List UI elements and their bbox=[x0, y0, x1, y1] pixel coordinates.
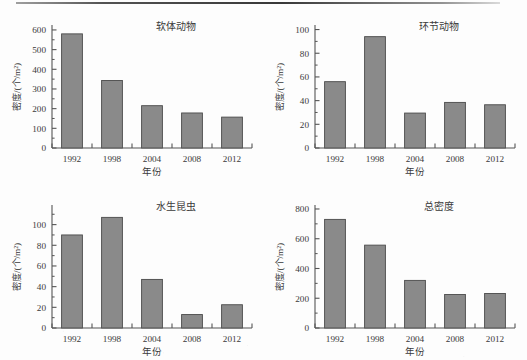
x-tick-label: 2004 bbox=[406, 154, 425, 164]
x-axis-title: 年份 bbox=[142, 346, 162, 357]
y-tick-label: 60 bbox=[37, 261, 47, 271]
y-tick-label: 100 bbox=[295, 25, 309, 35]
x-tick-label: 1998 bbox=[366, 154, 385, 164]
chart-title: 水生昆虫 bbox=[156, 200, 196, 212]
chart-aquatic-insects: 02040608010019921998200420082012年份密度/(个/… bbox=[0, 180, 263, 360]
y-tick-label: 600 bbox=[32, 25, 46, 35]
bar-1992 bbox=[62, 34, 83, 148]
y-tick-label: 0 bbox=[41, 143, 46, 153]
x-tick-label: 1998 bbox=[366, 334, 385, 344]
bar-2012 bbox=[485, 293, 506, 328]
bar-2008 bbox=[182, 315, 203, 328]
y-tick-label: 80 bbox=[300, 49, 310, 59]
chart-grid: 010020030040050060019921998200420082012年… bbox=[0, 0, 527, 360]
y-axis-title: 密度/(个/m²) bbox=[11, 243, 22, 291]
x-axis-title: 年份 bbox=[405, 346, 425, 357]
bar-group bbox=[102, 81, 123, 148]
x-tick-label: 2008 bbox=[446, 334, 465, 344]
chart-panel-annelids: 02040608010019921998200420082012年份密度/(个/… bbox=[263, 0, 526, 180]
bar-1998 bbox=[365, 37, 386, 148]
bar-group bbox=[405, 280, 426, 328]
bar-group bbox=[62, 34, 83, 148]
bar-2008 bbox=[445, 102, 466, 148]
x-tick-label: 2004 bbox=[143, 154, 162, 164]
x-tick-label: 2004 bbox=[143, 334, 162, 344]
bar-1992 bbox=[62, 235, 83, 328]
y-tick-label: 20 bbox=[37, 303, 47, 313]
bar-2012 bbox=[485, 105, 506, 148]
y-tick-label: 40 bbox=[300, 96, 310, 106]
x-tick-label: 2012 bbox=[223, 154, 242, 164]
bar-group bbox=[182, 113, 203, 148]
x-tick-label: 2008 bbox=[183, 334, 202, 344]
bar-group bbox=[365, 245, 386, 328]
bar-1992 bbox=[325, 82, 346, 148]
x-tick-label: 2008 bbox=[183, 154, 202, 164]
bar-group bbox=[325, 219, 346, 328]
bar-2012 bbox=[222, 305, 243, 328]
x-tick-label: 1992 bbox=[326, 154, 345, 164]
x-tick-label: 2012 bbox=[486, 334, 505, 344]
chart-title: 软体动物 bbox=[156, 20, 196, 32]
y-axis-title: 密度/(个/m²) bbox=[11, 63, 22, 111]
bar-2008 bbox=[182, 113, 203, 148]
chart-mollusks: 010020030040050060019921998200420082012年… bbox=[0, 0, 263, 180]
y-axis-title: 密度/(个/m²) bbox=[274, 243, 285, 291]
y-axis-title: 密度/(个/m²) bbox=[274, 63, 285, 111]
y-tick-label: 0 bbox=[41, 323, 46, 333]
bar-group bbox=[445, 102, 466, 148]
chart-panel-mollusks: 010020030040050060019921998200420082012年… bbox=[0, 0, 263, 180]
x-tick-label: 1998 bbox=[103, 334, 122, 344]
bar-1998 bbox=[102, 217, 123, 328]
chart-total-density: 020040060080019921998200420082012年份密度/(个… bbox=[263, 180, 526, 360]
x-tick-label: 2012 bbox=[223, 334, 242, 344]
bar-1998 bbox=[365, 245, 386, 328]
y-tick-label: 300 bbox=[32, 84, 46, 94]
y-tick-label: 100 bbox=[32, 124, 46, 134]
bar-group bbox=[485, 105, 506, 148]
y-tick-label: 400 bbox=[32, 65, 46, 75]
bar-group bbox=[325, 82, 346, 148]
y-tick-label: 500 bbox=[32, 45, 46, 55]
y-tick-label: 0 bbox=[304, 323, 309, 333]
bar-2004 bbox=[142, 279, 163, 328]
x-axis-title: 年份 bbox=[142, 166, 162, 177]
bar-2004 bbox=[405, 113, 426, 148]
y-tick-label: 40 bbox=[37, 282, 47, 292]
x-tick-label: 1992 bbox=[63, 334, 82, 344]
bar-group bbox=[142, 279, 163, 328]
bar-group bbox=[445, 295, 466, 328]
bar-group bbox=[405, 113, 426, 148]
y-tick-label: 600 bbox=[295, 234, 309, 244]
chart-title: 环节动物 bbox=[419, 20, 459, 32]
x-tick-label: 2008 bbox=[446, 154, 465, 164]
y-tick-label: 0 bbox=[304, 143, 309, 153]
chart-panel-aquatic-insects: 02040608010019921998200420082012年份密度/(个/… bbox=[0, 180, 263, 360]
x-tick-label: 2004 bbox=[406, 334, 425, 344]
bar-group bbox=[222, 305, 243, 328]
x-tick-label: 1992 bbox=[63, 154, 82, 164]
y-tick-label: 400 bbox=[295, 264, 309, 274]
y-tick-label: 200 bbox=[32, 104, 46, 114]
bar-group bbox=[222, 117, 243, 148]
bar-2012 bbox=[222, 117, 243, 148]
x-tick-label: 1992 bbox=[326, 334, 345, 344]
y-tick-label: 200 bbox=[295, 294, 309, 304]
y-tick-label: 20 bbox=[300, 120, 310, 130]
bar-group bbox=[62, 235, 83, 328]
y-tick-label: 100 bbox=[32, 220, 46, 230]
bar-1992 bbox=[325, 219, 346, 328]
bar-group bbox=[485, 293, 506, 328]
y-tick-label: 80 bbox=[37, 241, 47, 251]
bar-2004 bbox=[142, 106, 163, 148]
x-axis-title: 年份 bbox=[405, 166, 425, 177]
chart-panel-total-density: 020040060080019921998200420082012年份密度/(个… bbox=[263, 180, 526, 360]
y-tick-label: 800 bbox=[295, 204, 309, 214]
bar-group bbox=[365, 37, 386, 148]
bar-group bbox=[102, 217, 123, 328]
y-tick-label: 60 bbox=[300, 72, 310, 82]
chart-annelids: 02040608010019921998200420082012年份密度/(个/… bbox=[263, 0, 526, 180]
x-tick-label: 2012 bbox=[486, 154, 505, 164]
x-tick-label: 1998 bbox=[103, 154, 122, 164]
chart-title: 总密度 bbox=[424, 200, 454, 212]
